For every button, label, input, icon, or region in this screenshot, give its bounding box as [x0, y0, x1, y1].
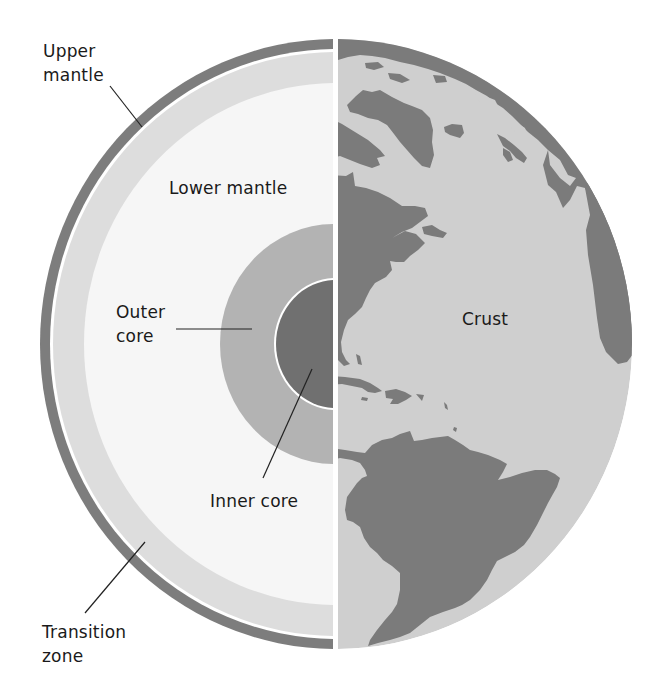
lower-mantle-label: Lower mantle	[169, 176, 287, 200]
transition-zone-leader-line	[85, 542, 145, 613]
upper-mantle-label-line2: mantle	[43, 63, 104, 87]
transition-zone-label-line1: Transition	[42, 620, 126, 644]
upper-mantle-leader-line	[110, 86, 142, 127]
inner-core-label: Inner core	[210, 489, 298, 513]
outer-core-label-line2: core	[116, 324, 165, 348]
crust-label: Crust	[462, 307, 508, 331]
lower-mantle-label-text: Lower mantle	[169, 176, 287, 200]
earth-cross-section-graphic	[0, 0, 659, 695]
transition-zone-label-line2: zone	[42, 644, 126, 668]
earth-layers-diagram: Upper mantle Lower mantle Outer core Inn…	[0, 0, 659, 695]
transition-zone-label: Transition zone	[42, 620, 126, 668]
outer-core-label-line1: Outer	[116, 300, 165, 324]
outer-core-label: Outer core	[116, 300, 165, 348]
upper-mantle-label: Upper mantle	[43, 39, 104, 87]
inner-core-label-text: Inner core	[210, 489, 298, 513]
upper-mantle-label-line1: Upper	[43, 39, 104, 63]
crust-label-text: Crust	[462, 307, 508, 331]
